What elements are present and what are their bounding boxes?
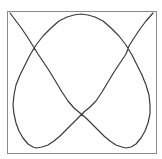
lissajous-curve	[10, 13, 153, 148]
lissajous-figure	[0, 0, 162, 159]
plot-frame	[8, 12, 157, 154]
